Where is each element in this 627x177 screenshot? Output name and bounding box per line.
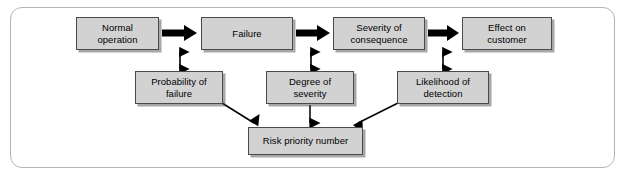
node-probability-of-failure[interactable]: Probability of failure [135, 71, 223, 104]
node-severity-of-consequence[interactable]: Severity of consequence [333, 17, 425, 50]
connector-probability-to-rpn [222, 103, 254, 123]
node-failure[interactable]: Failure [201, 17, 293, 50]
connector-likelihood-to-rpn [358, 103, 398, 123]
node-risk-priority-number[interactable]: Risk priority number [248, 127, 363, 155]
node-degree-of-severity[interactable]: Degree of severity [266, 71, 354, 104]
block-arrow-normal-to-failure [162, 25, 197, 41]
block-arrow-severity-to-effect [428, 25, 459, 41]
diagram-root: Normal operation Failure Severity of con… [0, 0, 627, 177]
node-normal-operation[interactable]: Normal operation [76, 17, 159, 50]
block-arrow-failure-to-severity [296, 25, 330, 41]
node-effect-on-customer[interactable]: Effect on customer [462, 17, 552, 50]
node-likelihood-of-detection[interactable]: Likelihood of detection [397, 71, 489, 104]
